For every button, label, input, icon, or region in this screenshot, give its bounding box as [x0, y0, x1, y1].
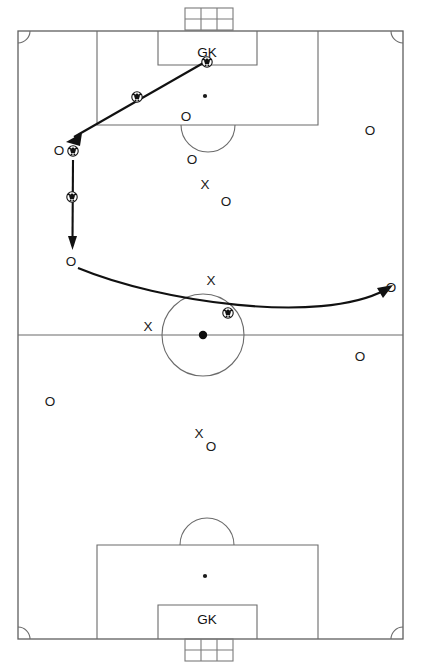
- player-o-center-low: O: [206, 439, 217, 454]
- kickoff-spot: [199, 331, 207, 339]
- arrow-head-pass-gk: [66, 133, 82, 146]
- player-o-left-low: O: [45, 394, 56, 409]
- player-o-box-top: O: [181, 109, 192, 124]
- bottom-penalty-arc: [180, 518, 234, 545]
- player-x-circle-left: X: [143, 319, 152, 334]
- ball-center-circle: [223, 308, 233, 318]
- movement-dribble-down-left: [68, 160, 77, 250]
- bottom-goal-net: [185, 639, 233, 661]
- player-o-right-target: O: [386, 280, 397, 295]
- player-x-low-center: X: [194, 426, 203, 441]
- arrow-head-dribble-left: [68, 236, 77, 250]
- ball-pass-1: [132, 92, 142, 102]
- top-gk-label: GK: [197, 45, 217, 60]
- player-o-box-front: O: [187, 152, 198, 167]
- player-o-right-low: O: [355, 349, 366, 364]
- top-goal-net: [185, 8, 233, 30]
- soccer-diagram-root: GK GK O O O O O O O O O O X X X X: [0, 0, 421, 667]
- player-o-left-mid: O: [66, 254, 77, 269]
- bottom-gk-label: GK: [197, 612, 217, 627]
- soccer-field-svg: GK GK O O O O O O O O O O X X X X: [0, 0, 421, 667]
- ball-receive-left: [68, 146, 78, 156]
- player-o-right-wing-high: O: [365, 123, 376, 138]
- bottom-penalty-spot: [203, 574, 207, 578]
- ball-dribble-down: [67, 192, 77, 202]
- player-x-box-center: X: [200, 177, 209, 192]
- top-penalty-spot: [203, 94, 207, 98]
- player-o-right-of-x: O: [221, 194, 232, 209]
- player-o-top-left-wing: O: [54, 143, 65, 158]
- switch-curve: [78, 268, 385, 307]
- movement-switch-to-right-wing: [78, 268, 393, 307]
- movement-pass-gk-to-left-wing: [66, 62, 205, 146]
- player-x-circle-top: X: [206, 273, 215, 288]
- top-penalty-arc: [181, 125, 235, 152]
